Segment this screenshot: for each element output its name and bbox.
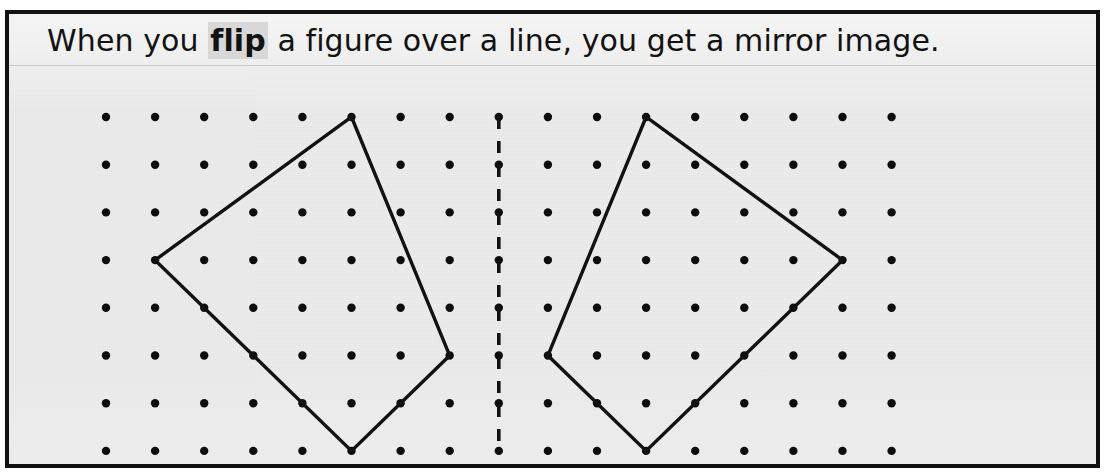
caption-text-before: When you [47,23,208,58]
grid-dot [544,256,552,264]
grid-dot [347,208,355,216]
grid-dot [887,161,895,169]
grid-dot [249,447,257,455]
grid-dot [789,256,797,264]
grid-dot [249,161,257,169]
grid-dot [838,208,846,216]
grid-dot [396,161,404,169]
grid-dot [544,161,552,169]
geoboard-area [9,66,1096,464]
grid-dot [396,447,404,455]
grid-dot [151,161,159,169]
grid-dot [396,256,404,264]
grid-dot [887,399,895,407]
grid-dot [102,447,110,455]
grid-dot [249,399,257,407]
grid-dot [691,161,699,169]
grid-dot [200,447,208,455]
grid-dot [593,161,601,169]
grid-dot [347,304,355,312]
grid-dot [200,161,208,169]
grid-dot [691,208,699,216]
grid-dot [740,447,748,455]
grid-dot [200,256,208,264]
grid-dot [642,161,650,169]
grid-dot [887,208,895,216]
grid-dot [593,304,601,312]
grid-dot [396,208,404,216]
grid-dot [691,351,699,359]
grid-dot [102,161,110,169]
grid-dot [789,447,797,455]
grid-dot [838,351,846,359]
grid-dot [789,351,797,359]
grid-dot [298,351,306,359]
grid-dot [691,256,699,264]
grid-dot [298,304,306,312]
grid-dot [446,447,454,455]
dot-grid-layer [102,113,896,455]
grid-dot [102,113,110,121]
geoboard-svg [9,66,1096,464]
caption-band: When you flip a figure over a line, you … [9,14,1096,66]
grid-dot [593,351,601,359]
grid-dot [838,304,846,312]
grid-dot [446,161,454,169]
grid-dot [887,447,895,455]
grid-dot [200,208,208,216]
grid-dot [691,304,699,312]
grid-dot [544,113,552,121]
grid-dot [740,256,748,264]
grid-dot [249,256,257,264]
grid-dot [396,351,404,359]
grid-dot [593,113,601,121]
grid-dot [446,256,454,264]
grid-dot [740,161,748,169]
grid-dot [838,399,846,407]
grid-dot [102,399,110,407]
grid-dot [642,351,650,359]
grid-dot [789,399,797,407]
grid-dot [102,304,110,312]
grid-dot [838,161,846,169]
grid-dot [249,113,257,121]
grid-dot [642,208,650,216]
grid-dot [151,399,159,407]
grid-dot [691,447,699,455]
grid-dot [347,256,355,264]
screenshot-root: When you flip a figure over a line, you … [0,0,1107,476]
grid-dot [740,113,748,121]
grid-dot [102,208,110,216]
grid-dot [151,447,159,455]
grid-dot [887,351,895,359]
grid-dot [151,208,159,216]
grid-dot [298,447,306,455]
grid-dot [200,351,208,359]
grid-dot [887,304,895,312]
grid-dot [544,304,552,312]
grid-dot [544,208,552,216]
grid-dot [151,304,159,312]
grid-dot [249,208,257,216]
grid-dot [151,113,159,121]
grid-dot [789,208,797,216]
grid-dot [102,351,110,359]
grid-dot [298,256,306,264]
grid-dot [544,447,552,455]
grid-dot [544,399,552,407]
grid-dot [347,161,355,169]
grid-dot [740,304,748,312]
grid-dot [495,447,503,455]
grid-dot [298,161,306,169]
grid-dot [593,208,601,216]
grid-dot [446,304,454,312]
grid-dot [642,399,650,407]
grid-dot [789,161,797,169]
grid-dot [740,399,748,407]
grid-dot [200,113,208,121]
caption-keyword-flip: flip [208,22,268,59]
grid-dot [102,256,110,264]
grid-dot [838,447,846,455]
grid-dot [249,304,257,312]
grid-dot [789,113,797,121]
